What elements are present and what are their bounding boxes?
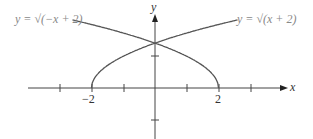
label-right-curve: y = √(x + 2) (237, 12, 296, 27)
tick-label-neg2: −2 (82, 92, 95, 107)
x-axis-label: x (290, 80, 295, 95)
y-axis-label: y (151, 0, 156, 15)
tick-label-pos2: 2 (215, 92, 221, 107)
x-arrow-icon (280, 85, 288, 91)
label-left-curve: y = √(−x + 2) (15, 12, 83, 27)
y-arrow-icon (152, 14, 158, 22)
graph: y = √(−x + 2) y = √(x + 2) x y −2 2 (0, 0, 313, 139)
